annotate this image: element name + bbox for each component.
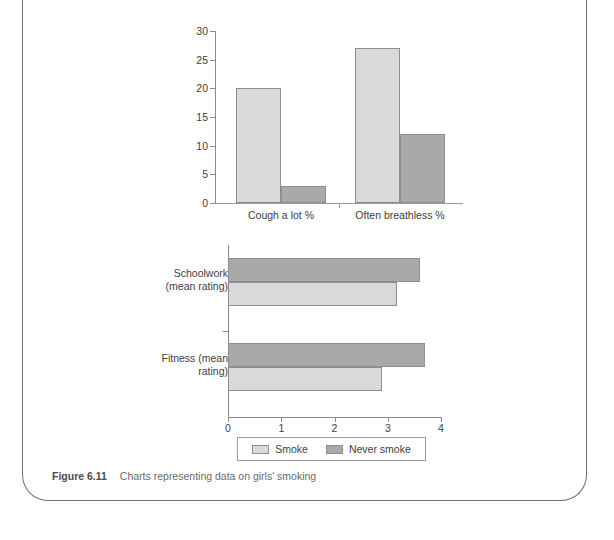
bar-breathless-smoke [355,48,400,203]
legend-entry-smoke: Smoke [252,443,308,455]
top-y-tick-label-10: 10 [182,141,208,151]
category-label-line-1: Schoolwork [132,267,228,280]
legend-swatch-never-smoke-icon [326,445,343,454]
bottom-x-tick-label-2: 2 [323,422,347,434]
top-y-tick-label-5: 5 [182,169,208,179]
category-label-line-2: rating) [132,365,228,378]
legend-swatch-smoke-icon [252,445,269,454]
top-chart-group-separator-tick [339,203,340,208]
bar-fitness-smoke [228,367,382,391]
top-y-tick-label-0: 0 [182,198,208,208]
legend-entry-never-smoke: Never smoke [326,443,411,455]
bar-schoolwork-smoke [228,282,397,306]
figure-caption: Figure 6.11Charts representing data on g… [52,470,552,482]
bottom-chart-category-separator-tick [223,331,228,332]
column-chart-health-symptoms: 30 25 20 15 10 5 0 Cough a lot % Often b… [0,0,614,232]
legend-label-smoke: Smoke [275,443,308,455]
category-label-line-1: Fitness (mean [132,352,228,365]
bottom-x-tick-label-4: 4 [429,422,453,434]
legend-label-never-smoke: Never smoke [349,443,411,455]
bottom-x-tick-label-3: 3 [376,422,400,434]
top-chart-y-axis-line [215,31,216,203]
bottom-x-tick-label-1: 1 [269,422,293,434]
top-y-tick-label-30: 30 [182,26,208,36]
top-y-tick-mark-0 [210,203,215,204]
bar-cough-smoke [236,88,281,203]
top-y-tick-mark-30 [210,31,215,32]
top-y-tick-mark-25 [210,60,215,61]
bar-chart-school-fitness-ratings: 0 1 2 3 4 Schoolwork (mean rating) Fitne… [0,236,614,436]
top-y-tick-mark-20 [210,88,215,89]
bar-breathless-never-smoke [400,134,445,203]
chart-legend: Smoke Never smoke [237,437,426,461]
bottom-chart-category-label-fitness: Fitness (mean rating) [132,352,228,377]
bar-cough-never-smoke [281,186,326,203]
category-label-line-2: (mean rating) [132,280,228,293]
figure-caption-number: Figure 6.11 [52,470,107,482]
top-y-tick-label-15: 15 [182,112,208,122]
top-y-tick-label-25: 25 [182,55,208,65]
top-y-tick-mark-5 [210,174,215,175]
bar-fitness-never-smoke [228,343,425,367]
bottom-chart-category-label-schoolwork: Schoolwork (mean rating) [132,267,228,292]
bottom-x-tick-label-0: 0 [216,422,240,434]
top-y-tick-mark-10 [210,146,215,147]
top-y-tick-mark-15 [210,117,215,118]
top-chart-category-label-breathless: Often breathless % [330,209,470,221]
bar-schoolwork-never-smoke [228,258,420,282]
top-y-tick-label-20: 20 [182,83,208,93]
figure-caption-text: Charts representing data on girls' smoki… [120,470,316,482]
